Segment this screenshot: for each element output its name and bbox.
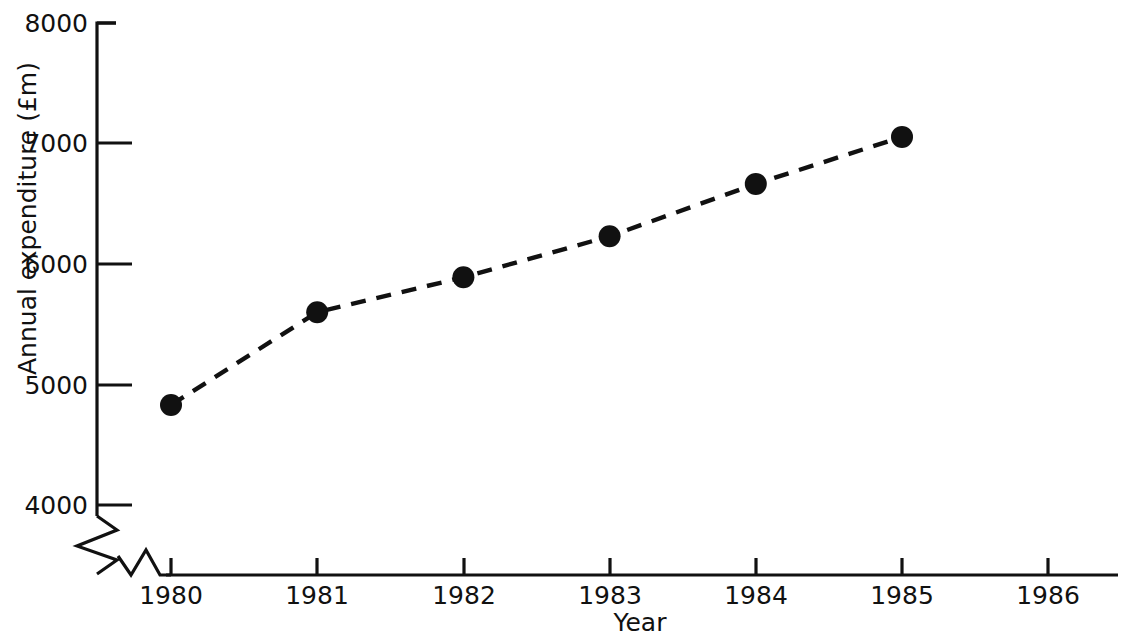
data-point-1984 — [745, 173, 767, 195]
x-tick-label-1980: 1980 — [139, 581, 203, 610]
data-point-1981 — [306, 301, 328, 323]
data-series — [160, 126, 913, 416]
chart-canvas: 8000 7000 6000 5000 4000 Annual expendit… — [0, 0, 1132, 639]
data-point-1985 — [891, 126, 913, 148]
y-tick-marks — [97, 23, 132, 505]
y-axis-title: Annual expenditure (£m) — [13, 62, 42, 375]
y-axis-line — [97, 23, 116, 516]
x-tick-label-1985: 1985 — [870, 581, 934, 610]
x-tick-marks — [171, 558, 1048, 575]
x-tick-label-1984: 1984 — [724, 581, 788, 610]
x-axis-title: Year — [613, 608, 668, 637]
y-tick-label-8000: 8000 — [24, 9, 88, 38]
data-point-1982 — [452, 266, 474, 288]
series-line-annual-expenditure — [171, 137, 902, 405]
y-tick-label-4000: 4000 — [24, 491, 88, 520]
x-tick-label-1982: 1982 — [432, 581, 496, 610]
x-tick-label-1983: 1983 — [578, 581, 642, 610]
data-point-1980 — [160, 394, 182, 416]
chart-figure: 8000 7000 6000 5000 4000 Annual expendit… — [0, 0, 1132, 639]
data-point-1983 — [599, 225, 621, 247]
y-axis-break-icon — [77, 516, 117, 574]
x-tick-label-1981: 1981 — [285, 581, 349, 610]
x-tick-label-1986: 1986 — [1016, 581, 1080, 610]
x-axis-break-icon — [118, 550, 171, 575]
x-axis — [118, 550, 1118, 575]
